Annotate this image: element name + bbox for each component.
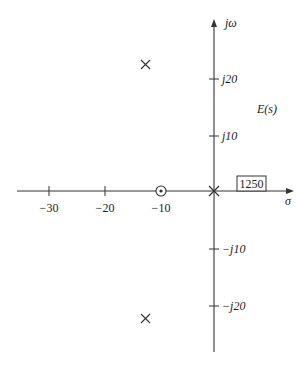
imag-tick-label: j10: [220, 129, 237, 143]
gain-value: 1250: [240, 177, 264, 191]
real-tick-neg20: −20: [96, 186, 115, 215]
pole-marker-icon-lower: [141, 314, 150, 323]
real-tick-neg30: −30: [40, 186, 59, 215]
imag-tick-label: −j20: [222, 299, 245, 313]
real-tick-label: −30: [40, 201, 59, 215]
real-tick-label: −10: [152, 201, 171, 215]
imag-tick-label: j20: [220, 72, 237, 86]
real-tick-neg10: −10: [152, 201, 171, 215]
imag-tick-label: −j10: [222, 242, 245, 256]
imag-axis-arrow-icon: [211, 19, 217, 27]
gain-box: 1250: [237, 176, 266, 191]
real-tick-label: −20: [96, 201, 115, 215]
function-label: E(s): [256, 102, 277, 116]
imag-tick-j10: j10: [209, 129, 237, 143]
real-axis-label: σ: [285, 194, 292, 208]
zero-marker-icon: [156, 186, 166, 196]
pole-zero-plot: −30 −20 −10 j20 j10 −j10 −j20 jω σ E(s) …: [0, 0, 308, 367]
imag-axis-label: jω: [223, 16, 237, 30]
pole-marker-icon-upper: [141, 60, 150, 69]
imag-tick-j20: j20: [209, 72, 237, 86]
